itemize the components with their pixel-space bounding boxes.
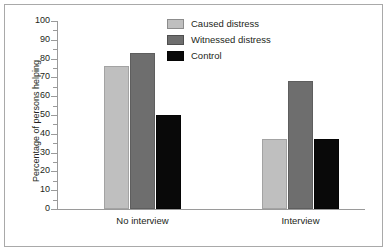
y-tick-label: 50 <box>6 110 50 119</box>
y-tick-label: 90 <box>6 35 50 44</box>
legend-label-caused-distress: Caused distress <box>191 19 259 29</box>
y-tick-label: 100 <box>6 16 50 25</box>
bar-interview-caused-distress <box>262 139 287 209</box>
bar-no-interview-caused-distress <box>104 66 129 209</box>
y-tick-label: 70 <box>6 72 50 81</box>
legend-item-caused-distress: Caused distress <box>167 17 271 31</box>
chart-legend: Caused distress Witnessed distress Contr… <box>167 17 271 65</box>
chart-figure: Percentage of persons helping 1009080706… <box>0 0 387 251</box>
y-tick-label: 30 <box>6 148 50 157</box>
y-tick-label: 80 <box>6 54 50 63</box>
y-tick-label: 0 <box>6 204 50 213</box>
y-tick-label: 60 <box>6 91 50 100</box>
x-tick-label: Interview <box>241 215 361 226</box>
bar-no-interview-control <box>156 115 181 209</box>
legend-swatch-icon-control <box>167 51 184 61</box>
y-tick-label: 40 <box>6 129 50 138</box>
legend-swatch-icon-caused-distress <box>167 19 184 29</box>
legend-item-witnessed-distress: Witnessed distress <box>167 33 271 47</box>
y-tick-label: 20 <box>6 166 50 175</box>
legend-label-control: Control <box>191 51 222 61</box>
x-tick-label: No interview <box>83 215 203 226</box>
bar-no-interview-witnessed-distress <box>130 53 155 209</box>
bar-interview-witnessed-distress <box>288 81 313 209</box>
x-axis-line <box>57 209 365 210</box>
bar-interview-control <box>314 139 339 209</box>
legend-item-control: Control <box>167 49 271 63</box>
legend-label-witnessed-distress: Witnessed distress <box>191 35 271 45</box>
legend-swatch-icon-witnessed-distress <box>167 35 184 45</box>
y-axis-tick-labels: 1009080706050403020100 <box>0 0 50 251</box>
y-tick-label: 10 <box>6 185 50 194</box>
